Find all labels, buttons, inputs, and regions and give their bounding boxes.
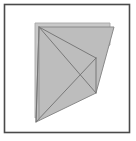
figure-container	[0, 0, 136, 141]
folded-paper-figure	[0, 0, 136, 141]
